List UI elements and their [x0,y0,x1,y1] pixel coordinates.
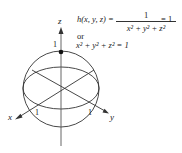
equation-rhs: = 1 [161,15,172,24]
z-axis-arrow-icon [59,27,64,34]
x-tick-label: 1 [35,109,39,117]
y-axis-arrow-icon [103,109,110,114]
y-axis-label: y [110,113,114,122]
equation-alternate: x² + y² + z² = 1 [76,41,129,50]
y-tick-label: 1 [88,109,92,117]
x-axis-label: x [8,113,12,122]
equation-lhs: h(x, y, z) = [77,15,114,24]
x-axis-arrow-icon [15,114,23,120]
y-axis [32,70,105,111]
fraction-denominator: x² + y² + z² [116,23,176,33]
z-intercept-point [59,50,64,55]
z-axis-label: z [58,17,62,26]
z-tick-label: 1 [53,41,57,49]
x-axis [19,70,94,117]
